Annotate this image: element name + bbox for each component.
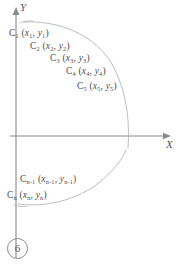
point-c3-close: ) xyxy=(86,53,89,63)
point-label-cn: Cn (xn, yn) xyxy=(7,190,47,200)
point-label-c1: C1 (x1, y1) xyxy=(9,28,49,38)
point-cn-subscript: n xyxy=(14,194,17,201)
point-c2-name: C xyxy=(30,41,37,51)
point-c2-subscript: 2 xyxy=(37,45,40,52)
point-c1-x-subscript: 1 xyxy=(29,32,32,39)
point-label-c4: C4 (x4, y4) xyxy=(66,66,106,76)
point-c1-name: C xyxy=(9,28,16,38)
point-c3-x-subscript: 3 xyxy=(70,57,73,64)
point-cn-name: C xyxy=(7,190,14,200)
point-cn-x-subscript: n xyxy=(27,194,30,201)
point-c3-y-subscript: 3 xyxy=(83,57,86,64)
point-c2-x-subscript: 2 xyxy=(50,45,53,52)
point-cn1-y-subscript: n-1 xyxy=(64,178,73,185)
figure-number-badge: 6 xyxy=(7,238,28,259)
point-cn-close: ) xyxy=(43,190,46,200)
point-cn1-x-subscript: n-1 xyxy=(46,178,55,185)
point-c4-x-subscript: 4 xyxy=(86,70,89,77)
point-c5-y-subscript: 5 xyxy=(110,85,113,92)
point-label-cn-minus-1: Cn-1 (xn-1, yn-1) xyxy=(20,174,76,184)
point-c5-close: ) xyxy=(113,81,116,91)
point-cn-y-subscript: n xyxy=(40,194,43,201)
point-c5-name: C xyxy=(77,81,84,91)
point-c3-subscript: 3 xyxy=(57,57,60,64)
point-label-c5: C5 (x5, y5) xyxy=(77,81,117,91)
point-label-c3: C3 (x3, y3) xyxy=(50,53,90,63)
point-c1-subscript: 1 xyxy=(16,32,19,39)
point-cn1-name: C xyxy=(20,174,27,184)
point-c4-name: C xyxy=(66,66,73,76)
coordinate-axes xyxy=(0,0,184,264)
y-axis-arrowhead xyxy=(13,7,20,15)
y-axis-label: Y xyxy=(20,1,26,13)
point-c5-subscript: 5 xyxy=(84,85,87,92)
point-c3-name: C xyxy=(50,53,57,63)
point-c4-subscript: 4 xyxy=(73,70,76,77)
figure-canvas: Y X C1 (x1, y1) C2 (x2, y2) C3 (x3, y3) … xyxy=(0,0,184,264)
point-c2-y-subscript: 2 xyxy=(63,45,66,52)
point-c2-close: ) xyxy=(66,41,69,51)
point-c1-close: ) xyxy=(45,28,48,38)
x-axis-label: X xyxy=(166,138,173,150)
point-c5-x-subscript: 5 xyxy=(97,85,100,92)
point-c4-y-subscript: 4 xyxy=(99,70,102,77)
point-c4-close: ) xyxy=(102,66,105,76)
point-label-c2: C2 (x2, y2) xyxy=(30,41,70,51)
point-cn1-subscript: n-1 xyxy=(27,178,36,185)
point-cn1-close: ) xyxy=(73,174,76,184)
point-c1-y-subscript: 1 xyxy=(42,32,45,39)
